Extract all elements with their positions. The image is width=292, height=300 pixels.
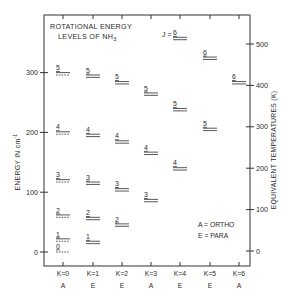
symmetry-label: E (120, 282, 125, 289)
j-level-label: 6 (173, 29, 177, 36)
energy-level: 3 (144, 191, 158, 202)
j-level-label: 6 (232, 73, 236, 80)
j-level-label: 2 (56, 207, 60, 214)
symmetry-label: E (208, 282, 213, 289)
j-level-label: 1 (56, 231, 60, 238)
j-level-label: 4 (56, 123, 60, 130)
energy-level: 4 (56, 123, 70, 134)
energy-level: 2 (115, 216, 129, 227)
left-tick-label: 200 (26, 128, 38, 137)
j-level-label: 1 (86, 233, 90, 240)
energy-level: 5 (86, 67, 100, 78)
j-level-label: 2 (115, 216, 119, 223)
k-label: K=6 (233, 270, 246, 277)
legend-para: E = PARA (198, 232, 229, 239)
top-ticks (63, 15, 239, 19)
energy-level: 2 (56, 207, 70, 218)
energy-level: 4 (144, 144, 158, 155)
j-level-label: 2 (86, 209, 90, 216)
j-prefix-label: J = (162, 31, 172, 38)
k-label: K=5 (204, 270, 217, 277)
left-axis-label: ENERGY IN cm-1 (12, 134, 21, 191)
energy-level: 5 (203, 120, 217, 131)
energy-level: 1 (56, 231, 70, 242)
k-label: K=1 (87, 270, 100, 277)
energy-level: 0 (56, 243, 70, 253)
right-tick-label: 500 (256, 40, 268, 49)
diagram-title-line1: ROTATIONAL ENERGY (50, 22, 132, 31)
j-level-label: 3 (115, 180, 119, 187)
k-label: K=2 (116, 270, 129, 277)
energy-level: 3 (56, 171, 70, 182)
energy-level: 3 (115, 180, 129, 191)
j-level-label: 4 (144, 144, 148, 151)
j-level-label: 3 (86, 174, 90, 181)
energy-levels: 012345123452345345456566 (56, 29, 246, 252)
energy-level-diagram: 0100200300 0100200300400500 012345123452… (0, 0, 292, 300)
left-axis: 0100200300 (26, 68, 48, 256)
legend-ortho: A = ORTHO (198, 221, 234, 228)
right-axis: 0100200300400500 (246, 40, 268, 256)
j-level-label: 5 (173, 100, 177, 107)
j-level-label: 5 (86, 67, 90, 74)
symmetry-label: A (61, 282, 66, 289)
symmetry-label: A (149, 282, 154, 289)
j-level-label: 4 (115, 132, 119, 139)
right-tick-label: 100 (256, 205, 268, 214)
energy-level: 1 (86, 233, 100, 244)
j-level-label: 5 (56, 64, 60, 71)
energy-level: 5 (173, 100, 187, 111)
energy-level: 4 (86, 126, 100, 137)
left-tick-label: 100 (26, 188, 38, 197)
energy-level: 4 (115, 132, 129, 143)
j-level-label: 0 (56, 243, 60, 250)
k-column-labels: K=0AK=1EK=2EK=3AK=4EK=5EK=6A (57, 270, 246, 289)
diagram-title-line2: LEVELS OF NH3 (58, 32, 117, 42)
right-tick-label: 400 (256, 81, 268, 90)
symmetry-label: E (178, 282, 183, 289)
k-label: K=3 (145, 270, 158, 277)
energy-level: 5 (144, 85, 158, 96)
energy-level: 5 (115, 73, 129, 84)
k-label: K=0 (57, 270, 70, 277)
right-tick-label: 0 (256, 247, 260, 256)
j-level-label: 4 (173, 159, 177, 166)
j-level-label: 6 (203, 49, 207, 56)
energy-level: 6 (203, 49, 217, 60)
k-label: K=4 (174, 270, 187, 277)
j-level-label: 5 (115, 73, 119, 80)
j-level-label: 3 (56, 171, 60, 178)
left-tick-label: 0 (34, 248, 38, 257)
j-level-label: 4 (86, 126, 90, 133)
symmetry-label: E (91, 282, 96, 289)
left-tick-label: 300 (26, 68, 38, 77)
energy-level: 3 (86, 174, 100, 185)
j-level-label: 5 (203, 120, 207, 127)
bottom-ticks (63, 262, 239, 266)
j-level-label: 3 (144, 191, 148, 198)
right-tick-label: 300 (256, 122, 268, 131)
energy-level: 2 (86, 209, 100, 220)
plot-frame (44, 15, 250, 266)
energy-level: 5 (56, 64, 70, 75)
right-axis-label: EQUIVALENT TEMPERATURES (K) (270, 91, 278, 210)
energy-level: 6 (173, 29, 187, 40)
j-level-label: 5 (144, 85, 148, 92)
energy-level: 6 (232, 73, 246, 84)
energy-level: 4 (173, 159, 187, 170)
symmetry-label: A (237, 282, 242, 289)
right-tick-label: 200 (256, 164, 268, 173)
